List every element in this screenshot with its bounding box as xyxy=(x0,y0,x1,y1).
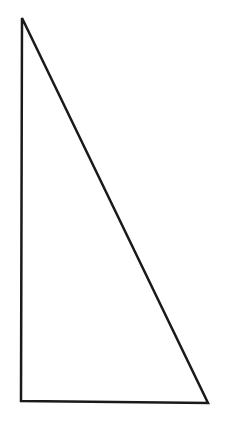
triangle-figure xyxy=(0,0,234,442)
diagram-canvas xyxy=(0,0,234,442)
right-triangle-shape xyxy=(21,18,208,403)
